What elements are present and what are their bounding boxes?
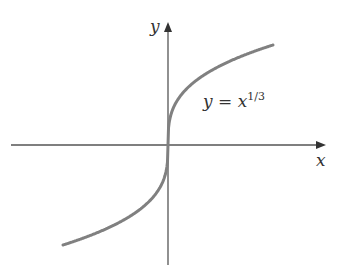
y-axis-arrow-icon — [164, 22, 172, 32]
x-axis-arrow-icon — [316, 141, 326, 149]
y-axis-label: y — [150, 18, 160, 35]
equation-label: y = x1/3 — [203, 91, 265, 110]
cube-root-graph — [0, 0, 343, 268]
x-axis-label: x — [316, 152, 326, 169]
equation-exponent: 1/3 — [247, 90, 265, 103]
equation-base: y = x — [203, 91, 247, 111]
